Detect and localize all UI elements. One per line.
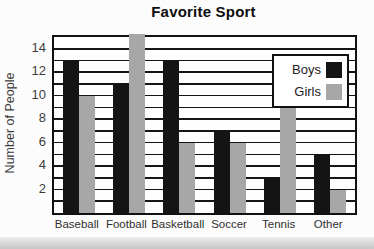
page-scan-strip <box>0 237 374 249</box>
x-axis-label-basketball: Basketball <box>151 218 204 230</box>
x-axis-label-baseball: Baseball <box>52 218 102 230</box>
y-tick-label-6: 6 <box>12 134 46 149</box>
legend-swatch-boys <box>326 62 342 78</box>
bar-girls-basketball <box>179 143 195 213</box>
bar-group-basketball <box>154 37 204 213</box>
y-tick-label-8: 8 <box>12 110 46 125</box>
x-axis-label-soccer: Soccer <box>204 218 254 230</box>
bar-boys-tennis <box>264 178 280 213</box>
bar-boys-basketball <box>163 60 179 213</box>
y-tick-label-10: 10 <box>12 87 46 102</box>
x-axis-label-tennis: Tennis <box>254 218 304 230</box>
bar-boys-football <box>113 84 129 213</box>
bar-girls-soccer <box>230 143 246 213</box>
legend-row-girls: Girls <box>278 82 342 101</box>
x-axis-labels: BaseballFootballBasketballSoccerTennisOt… <box>52 218 353 230</box>
y-tick-label-14: 14 <box>12 40 46 55</box>
y-tick-label-12: 12 <box>12 63 46 78</box>
bar-girls-tennis <box>280 107 296 213</box>
legend: BoysGirls <box>272 54 349 108</box>
bar-group-soccer <box>205 37 255 213</box>
bar-girls-football <box>129 34 145 213</box>
bar-boys-soccer <box>214 131 230 213</box>
legend-swatch-girls <box>326 84 342 100</box>
plot-area: BoysGirls <box>52 35 357 215</box>
x-axis-label-football: Football <box>102 218 152 230</box>
legend-label-girls: Girls <box>294 84 321 99</box>
y-tick-label-4: 4 <box>12 157 46 172</box>
legend-label-boys: Boys <box>292 62 321 77</box>
bar-girls-other <box>330 190 346 213</box>
bar-group-baseball <box>54 37 104 213</box>
chart-title: Favorite Sport <box>52 3 355 20</box>
bar-group-football <box>104 37 154 213</box>
bar-boys-other <box>314 154 330 213</box>
x-axis-label-other: Other <box>303 218 353 230</box>
bar-girls-baseball <box>79 96 95 213</box>
bar-boys-baseball <box>63 60 79 213</box>
y-tick-label-2: 2 <box>12 181 46 196</box>
legend-row-boys: Boys <box>278 60 342 79</box>
